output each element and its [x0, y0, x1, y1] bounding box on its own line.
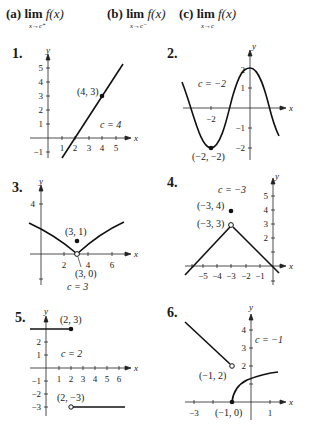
problem-number: 2. — [167, 46, 178, 62]
svg-text:3: 3 — [87, 143, 92, 153]
y-axis-label: y — [43, 306, 48, 316]
problem-number: 6. — [167, 305, 178, 321]
svg-text:4: 4 — [31, 199, 36, 209]
svg-text:3: 3 — [242, 343, 247, 353]
x-axis-label: x — [133, 133, 138, 143]
svg-text:2: 2 — [242, 361, 247, 371]
graph-1: 1. y x 1 2 3 4 5 −1 1 2 3 4 5 — [0, 40, 155, 175]
point-label: (−3, 4) — [197, 200, 224, 212]
part-b: (b) lim f(x) x→c⁻ — [107, 6, 166, 22]
problem-number: 3. — [12, 180, 23, 196]
svg-text:6: 6 — [110, 260, 115, 270]
part-a: (a) lim f(x) x→c⁺ — [6, 6, 64, 22]
svg-text:−3: −3 — [189, 408, 199, 418]
function-text: f(x) — [46, 6, 64, 21]
svg-text:4: 4 — [39, 77, 44, 87]
graph-3-plot: y x 2 4 6 4 (3, 1) (3, 0) c = 3 — [0, 175, 155, 305]
limit-subscript: x→c⁻ — [130, 22, 147, 30]
point-label: (−2, −2) — [192, 151, 225, 163]
c-value-label: c = 3 — [67, 281, 88, 292]
part-c: (c) lim f(x) x→c — [179, 6, 236, 22]
y-axis-label: y — [251, 41, 256, 51]
svg-text:−2: −2 — [206, 114, 216, 124]
x-axis-label: x — [288, 103, 293, 113]
svg-text:2: 2 — [37, 337, 42, 347]
svg-text:1: 1 — [39, 119, 44, 129]
graph-5: 5. y x 1 2 3 4 5 6 2 1 −1 −2 −3 (2, 3) — [0, 300, 155, 428]
problem-number: 5. — [15, 310, 26, 326]
c-value-label: c = 2 — [61, 348, 82, 359]
lim-text: lim — [24, 6, 42, 21]
svg-text:−1: −1 — [255, 271, 265, 281]
lim-text: lim — [197, 6, 215, 21]
point-label: (−1, 2) — [199, 370, 226, 382]
svg-text:5: 5 — [114, 143, 119, 153]
point-label: (−1, 0) — [215, 407, 242, 419]
svg-text:−5: −5 — [198, 271, 208, 281]
svg-text:4: 4 — [264, 205, 269, 215]
svg-text:1: 1 — [37, 350, 42, 360]
graph-4-plot: y x −5 −4 −3 −2 −1 5 4 3 2 (−3, 4) (−3, … — [155, 175, 313, 305]
svg-text:−1: −1 — [33, 147, 43, 157]
graph-2: 2. y x −2 2 1 −1 −2 (−2, −2) c = −2 — [155, 40, 313, 175]
svg-text:2: 2 — [73, 143, 78, 153]
graph-2-plot: y x −2 2 1 −1 −2 (−2, −2) c = −2 — [155, 40, 313, 175]
svg-text:−1: −1 — [31, 376, 41, 386]
svg-text:5: 5 — [105, 374, 110, 384]
c-value-label: c = −1 — [255, 334, 283, 345]
graph-4: 4. y x −5 −4 −3 −2 −1 5 4 3 2 (−3, 4) — [155, 175, 313, 305]
graph-6: 6. y x −3 1 4 3 2 (−1, 2) (−1, 0) c = −1 — [155, 300, 313, 428]
part-label: (c) — [179, 6, 193, 21]
lim-text: lim — [126, 6, 144, 21]
c-value-label: c = 4 — [100, 119, 121, 130]
svg-text:3: 3 — [264, 219, 269, 229]
x-axis-label: x — [288, 261, 293, 271]
svg-text:4: 4 — [242, 325, 247, 335]
part-label: (b) — [107, 6, 123, 21]
svg-text:1: 1 — [268, 408, 273, 418]
svg-text:6: 6 — [117, 374, 122, 384]
svg-text:5: 5 — [264, 191, 269, 201]
svg-text:−2: −2 — [241, 271, 251, 281]
svg-text:−2: −2 — [31, 389, 41, 399]
graph-3: 3. y x 2 4 6 4 (3, 1) (3, 0) c = 3 — [0, 175, 155, 305]
limit-subscript: x→c — [201, 22, 214, 30]
problem-number: 1. — [12, 46, 23, 62]
point-label: (2, 3) — [60, 314, 82, 326]
svg-text:−2: −2 — [235, 143, 245, 153]
point-label: (−3, 3) — [197, 218, 224, 230]
c-value-label: c = −3 — [218, 184, 246, 195]
y-axis-label: y — [274, 175, 279, 181]
y-axis-label: y — [248, 302, 253, 312]
svg-text:1: 1 — [60, 143, 65, 153]
x-axis-label: x — [288, 397, 293, 407]
svg-text:1: 1 — [57, 374, 62, 384]
y-axis-label: y — [45, 45, 50, 55]
x-axis-label: x — [133, 249, 138, 259]
part-label: (a) — [6, 6, 21, 21]
function-text: f(x) — [218, 6, 236, 21]
svg-text:−3: −3 — [31, 402, 41, 412]
point-label: (2, −3) — [57, 392, 84, 404]
point-label: (3, 0) — [75, 268, 97, 280]
svg-text:−3: −3 — [226, 271, 236, 281]
c-value-label: c = −2 — [198, 78, 226, 89]
svg-text:−1: −1 — [235, 123, 245, 133]
svg-text:3: 3 — [81, 374, 86, 384]
svg-text:−4: −4 — [212, 271, 222, 281]
svg-text:2: 2 — [69, 374, 74, 384]
function-text: f(x) — [147, 6, 165, 21]
svg-text:4: 4 — [93, 374, 98, 384]
y-axis-label: y — [38, 176, 43, 186]
svg-text:4: 4 — [100, 143, 105, 153]
graph-1-plot: y x 1 2 3 4 5 −1 1 2 3 4 5 (4, 3) c = 4 — [0, 40, 155, 175]
x-axis-label: x — [133, 363, 138, 373]
svg-text:2: 2 — [39, 105, 44, 115]
svg-text:1: 1 — [241, 83, 246, 93]
point-label: (3, 1) — [65, 226, 87, 238]
limit-parts-header: (a) lim f(x) x→c⁺ (b) lim f(x) x→c⁻ (c) … — [6, 6, 306, 36]
limit-subscript: x→c⁺ — [29, 22, 46, 30]
svg-text:2: 2 — [62, 260, 67, 270]
graph-6-plot: y x −3 1 4 3 2 (−1, 2) (−1, 0) c = −1 — [155, 300, 313, 428]
svg-text:5: 5 — [39, 63, 44, 73]
